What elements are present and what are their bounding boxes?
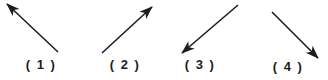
arrow-3-down-left	[182, 5, 238, 53]
arrow-label-1: ( 1 )	[26, 58, 57, 71]
arrow-1-up-left	[7, 4, 58, 52]
arrow-label-2: ( 2 )	[110, 58, 141, 71]
arrow-label-4: ( 4 )	[273, 60, 304, 73]
arrow-label-3: ( 3 )	[185, 58, 216, 71]
arrow-direction-figure: ( 1 ) ( 2 ) ( 3 ) ( 4 )	[0, 0, 328, 80]
arrow-2-up-right	[102, 7, 152, 53]
arrow-4-down-right	[272, 12, 318, 58]
